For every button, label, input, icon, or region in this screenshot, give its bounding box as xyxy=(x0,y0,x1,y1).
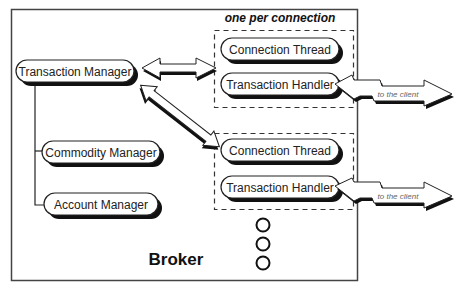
transaction-handler-2-label: Transaction Handler xyxy=(226,181,334,195)
connection-thread-2-node[interactable]: Connection Thread xyxy=(221,139,343,165)
client-arrow-2-label: to the client xyxy=(378,192,420,201)
account-manager-node[interactable]: Account Manager xyxy=(44,193,162,219)
broker-diagram: Transaction Manager Commodity Manager Ac… xyxy=(0,0,462,289)
commodity-manager-node[interactable]: Commodity Manager xyxy=(42,141,164,167)
group-label: one per connection xyxy=(225,11,336,25)
connection-thread-1-node[interactable]: Connection Thread xyxy=(221,38,343,64)
transaction-manager-node[interactable]: Transaction Manager xyxy=(16,60,138,86)
transaction-handler-1-node[interactable]: Transaction Handler xyxy=(221,73,343,99)
transaction-handler-1-label: Transaction Handler xyxy=(226,78,334,92)
ellipsis-circles xyxy=(257,219,270,270)
transaction-manager-label: Transaction Manager xyxy=(19,65,132,79)
account-manager-label: Account Manager xyxy=(54,198,148,212)
transaction-handler-2-node[interactable]: Transaction Handler xyxy=(221,176,343,202)
commodity-manager-label: Commodity Manager xyxy=(45,146,156,160)
broker-label: Broker xyxy=(149,250,204,269)
connection-thread-2-label: Connection Thread xyxy=(229,144,331,158)
connection-thread-1-label: Connection Thread xyxy=(229,43,331,57)
client-arrow-1-label: to the client xyxy=(378,90,420,99)
